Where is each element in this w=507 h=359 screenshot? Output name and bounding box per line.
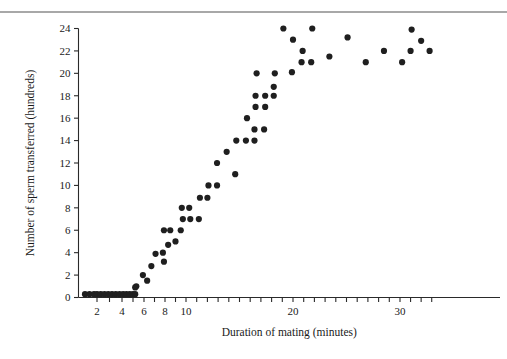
y-tick-label: 24 bbox=[60, 22, 72, 34]
x-tick-label: 8 bbox=[162, 305, 168, 317]
y-tick-label: 16 bbox=[60, 112, 72, 124]
data-point bbox=[261, 126, 267, 132]
data-point bbox=[161, 227, 167, 233]
data-point bbox=[144, 278, 150, 284]
data-point bbox=[344, 34, 350, 40]
data-point bbox=[165, 242, 171, 248]
data-point bbox=[186, 205, 192, 211]
data-point bbox=[172, 238, 178, 244]
data-point bbox=[178, 227, 184, 233]
y-tick-label: 2 bbox=[65, 269, 71, 281]
data-point bbox=[214, 160, 220, 166]
data-point bbox=[161, 259, 167, 265]
x-axis-title: Duration of mating (minutes) bbox=[222, 326, 357, 339]
x-tick-label: 4 bbox=[119, 305, 125, 317]
data-point bbox=[133, 283, 139, 289]
y-tick-label: 4 bbox=[65, 246, 71, 258]
data-point bbox=[300, 48, 306, 54]
y-tick-label: 0 bbox=[65, 291, 71, 303]
data-point bbox=[363, 59, 369, 65]
data-point bbox=[224, 149, 230, 155]
data-point bbox=[399, 59, 405, 65]
x-axis: 2468102030 bbox=[79, 298, 501, 317]
data-point bbox=[167, 227, 173, 233]
data-point bbox=[244, 115, 250, 121]
data-point bbox=[418, 38, 424, 44]
data-point bbox=[232, 171, 238, 177]
data-point bbox=[252, 104, 258, 110]
data-point bbox=[280, 25, 286, 31]
data-point bbox=[254, 70, 260, 76]
data-point bbox=[262, 104, 268, 110]
y-tick-label: 14 bbox=[60, 134, 72, 146]
y-tick-label: 18 bbox=[60, 90, 72, 102]
data-point bbox=[233, 137, 239, 143]
x-tick-label: 10 bbox=[181, 305, 193, 317]
data-point bbox=[204, 195, 210, 201]
data-point bbox=[140, 272, 146, 278]
data-point bbox=[243, 137, 249, 143]
figure-container: 024681012141618202224 2468102030 Duratio… bbox=[0, 0, 507, 359]
data-points-layer bbox=[82, 25, 433, 297]
data-point bbox=[251, 137, 257, 143]
data-point bbox=[271, 84, 277, 90]
x-tick-label: 20 bbox=[288, 305, 300, 317]
y-axis: 024681012141618202224 bbox=[60, 22, 79, 303]
data-point bbox=[409, 27, 415, 33]
data-point bbox=[381, 48, 387, 54]
data-point bbox=[308, 59, 314, 65]
data-point bbox=[180, 216, 186, 222]
data-point bbox=[251, 126, 257, 132]
x-tick-label: 2 bbox=[94, 305, 100, 317]
y-axis-title: Number of sperm transferred (hundreds) bbox=[24, 70, 37, 257]
data-point bbox=[132, 291, 138, 297]
y-tick-label: 6 bbox=[65, 224, 71, 236]
data-point bbox=[152, 251, 158, 257]
y-tick-label: 20 bbox=[60, 67, 72, 79]
y-tick-label: 12 bbox=[60, 157, 71, 169]
y-tick-label: 10 bbox=[60, 179, 72, 191]
data-point bbox=[290, 37, 296, 43]
data-point bbox=[298, 59, 304, 65]
data-point bbox=[196, 216, 202, 222]
data-point bbox=[214, 182, 220, 188]
data-point bbox=[262, 93, 268, 99]
data-point bbox=[160, 250, 166, 256]
data-point bbox=[252, 93, 258, 99]
data-point bbox=[289, 69, 295, 75]
data-point bbox=[326, 53, 332, 59]
data-point bbox=[197, 195, 203, 201]
data-point bbox=[148, 263, 154, 269]
scatter-plot: 024681012141618202224 2468102030 Duratio… bbox=[0, 0, 507, 359]
data-point bbox=[309, 25, 315, 31]
y-tick-label: 8 bbox=[65, 202, 71, 214]
data-point bbox=[271, 93, 277, 99]
data-point bbox=[179, 205, 185, 211]
data-point bbox=[205, 182, 211, 188]
data-point bbox=[427, 48, 433, 54]
data-point bbox=[187, 216, 193, 222]
x-tick-label: 6 bbox=[141, 305, 147, 317]
data-point bbox=[272, 70, 278, 76]
y-tick-label: 22 bbox=[60, 45, 71, 57]
x-tick-label: 30 bbox=[395, 305, 407, 317]
data-point bbox=[407, 48, 413, 54]
